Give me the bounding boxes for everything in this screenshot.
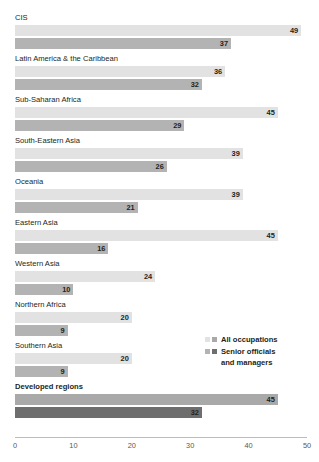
- x-axis-tick: 50: [303, 441, 311, 450]
- bar-row: 24: [0, 271, 319, 282]
- bar-value-label: 32: [15, 79, 202, 90]
- bar-row: 9: [0, 366, 319, 377]
- bar-group-label: Oceania: [0, 176, 319, 187]
- legend-swatch-group: [205, 347, 217, 354]
- bar-row: 32: [0, 407, 319, 418]
- bar-row: 49: [0, 25, 319, 36]
- x-axis-tick: 10: [69, 441, 77, 450]
- x-axis-tick: 0: [13, 441, 17, 450]
- bar-value-label: 32: [15, 407, 202, 418]
- x-axis-line: [15, 437, 307, 438]
- legend-label-continuation: and managers: [205, 358, 317, 368]
- bar-row: 10: [0, 284, 319, 295]
- legend-item: Senior officials: [205, 347, 317, 357]
- bar-value-label: 10: [15, 284, 73, 295]
- bar-value-label: 24: [15, 271, 155, 282]
- bar-value-label: 29: [15, 120, 184, 131]
- x-axis-tick: 40: [244, 441, 252, 450]
- bar-value-label: 26: [15, 161, 167, 172]
- legend-label: All occupations: [221, 335, 278, 345]
- bar-row: 39: [0, 148, 319, 159]
- bar-value-label: 20: [15, 353, 132, 364]
- bar-value-label: 39: [15, 148, 243, 159]
- bar-group: Developed regions4532: [0, 381, 319, 418]
- bar-row: 39: [0, 189, 319, 200]
- bar-value-label: 21: [15, 202, 138, 213]
- bar-row: 26: [0, 161, 319, 172]
- bar-value-label: 45: [15, 230, 278, 241]
- legend-swatch-group: [205, 335, 217, 342]
- bar-value-label: 39: [15, 189, 243, 200]
- bar-group-label: Western Asia: [0, 258, 319, 269]
- bar-group: Western Asia2410: [0, 258, 319, 295]
- bar-value-label: 16: [15, 243, 108, 254]
- bar-value-label: 45: [15, 394, 278, 405]
- chart-container: CIS4937Latin America & the Caribbean3632…: [0, 0, 319, 462]
- bar-row: 20: [0, 312, 319, 323]
- legend-label: Senior officials: [221, 347, 275, 357]
- bar-group: South-Eastern Asia3926: [0, 135, 319, 172]
- legend-item: All occupations: [205, 335, 317, 345]
- bar-group-label: South-Eastern Asia: [0, 135, 319, 146]
- bar-row: 45: [0, 230, 319, 241]
- bar-row: 37: [0, 38, 319, 49]
- bar-group: Sub-Saharan Africa4529: [0, 94, 319, 131]
- cropped-title-text: [14, 0, 310, 7]
- bar-group: CIS4937: [0, 12, 319, 49]
- bar-group-label: Northern Africa: [0, 299, 319, 310]
- bar-group: Eastern Asia4516: [0, 217, 319, 254]
- bar-value-label: 36: [15, 66, 225, 77]
- legend-swatch-dark: [212, 337, 217, 342]
- legend-swatch-dark: [212, 349, 217, 354]
- bar-value-label: 37: [15, 38, 231, 49]
- bar-group-label: Eastern Asia: [0, 217, 319, 228]
- bar-group: Oceania3921: [0, 176, 319, 213]
- bar-row: 36: [0, 66, 319, 77]
- x-axis-tick: 30: [186, 441, 194, 450]
- bar-group-label: Developed regions: [0, 381, 319, 392]
- bar-group-label: Latin America & the Caribbean: [0, 53, 319, 64]
- bar-value-label: 49: [15, 25, 301, 36]
- legend-swatch-light: [205, 349, 210, 354]
- bar-row: 21: [0, 202, 319, 213]
- bar-group: Northern Africa209: [0, 299, 319, 336]
- bar-row: 45: [0, 394, 319, 405]
- x-axis-tick: 20: [128, 441, 136, 450]
- legend-swatch-light: [205, 337, 210, 342]
- bar-value-label: 45: [15, 107, 278, 118]
- bar-row: 32: [0, 79, 319, 90]
- bar-value-label: 9: [15, 366, 68, 377]
- bar-group: Latin America & the Caribbean3632: [0, 53, 319, 90]
- chart-legend: All occupationsSenior officialsand manag…: [205, 335, 317, 368]
- bar-row: 45: [0, 107, 319, 118]
- bar-row: 16: [0, 243, 319, 254]
- bar-value-label: 20: [15, 312, 132, 323]
- bar-group-label: Sub-Saharan Africa: [0, 94, 319, 105]
- bar-row: 29: [0, 120, 319, 131]
- bar-group-label: CIS: [0, 12, 319, 23]
- x-axis-tick-labels: 01020304050: [0, 441, 319, 455]
- bar-value-label: 9: [15, 325, 68, 336]
